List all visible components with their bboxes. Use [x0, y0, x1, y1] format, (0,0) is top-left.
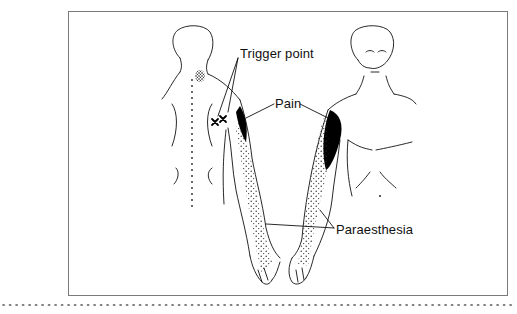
spine-markings: [191, 79, 193, 207]
pain-label: Pain: [275, 96, 301, 111]
dotted-divider: [0, 303, 517, 307]
paraesthesia-zone-posterior: [236, 120, 272, 274]
paraesthesia-label: Paraesthesia: [336, 222, 413, 237]
paraesthesia-zone-anterior: [298, 112, 329, 266]
trigger-point-label: Trigger point: [240, 46, 314, 61]
trigger-point-markers: [212, 116, 226, 125]
